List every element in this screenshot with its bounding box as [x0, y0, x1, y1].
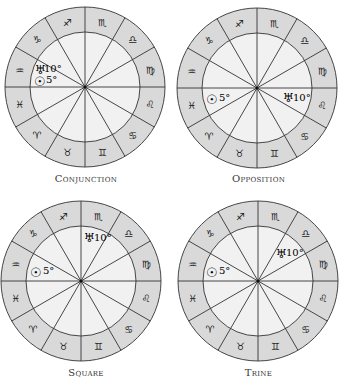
- scorpio-icon: ♏: [271, 211, 280, 222]
- leo-icon: ♌: [319, 293, 328, 304]
- leo-icon: ♌: [142, 293, 151, 304]
- taurus-icon: ♉: [236, 341, 245, 352]
- leo-icon: ♌: [146, 99, 155, 110]
- sun-degree: 5°: [43, 265, 54, 276]
- libra-icon: ♎: [128, 34, 137, 45]
- sun-icon: ☉: [30, 265, 42, 280]
- sagittarius-icon: ♐: [235, 18, 244, 29]
- center-point: [256, 87, 259, 90]
- cancer-icon: ♋: [300, 131, 309, 142]
- pisces-icon: ♓: [188, 293, 197, 304]
- gemini-icon: ♊: [271, 341, 280, 352]
- uranus-degree: 10°: [94, 232, 112, 243]
- cancer-icon: ♋: [301, 324, 310, 335]
- taurus-icon: ♉: [59, 341, 68, 352]
- caption-opposition: Opposition: [172, 173, 345, 184]
- virgo-icon: ♍: [146, 65, 155, 76]
- aries-icon: ♈: [206, 324, 215, 335]
- pisces-icon: ♓: [187, 100, 196, 111]
- capricorn-icon: ♑: [205, 35, 214, 46]
- chart-conjunction: ♒♑♐♏♎♍♌♋♊♉♈♓ Conjunction ♅ 10° ☉ 5°: [0, 0, 172, 191]
- pisces-icon: ♓: [11, 293, 20, 304]
- libra-icon: ♎: [300, 35, 309, 46]
- caption-conjunction: Conjunction: [0, 173, 172, 184]
- caption-square: Square: [0, 367, 172, 378]
- sun-icon: ☉: [206, 92, 218, 107]
- uranus-degree: 10°: [44, 63, 62, 74]
- aquarius-icon: ♒: [11, 259, 20, 270]
- sun-degree: 5°: [219, 92, 230, 103]
- libra-icon: ♎: [301, 228, 310, 239]
- caption-trine: Trine: [172, 367, 345, 378]
- zodiac-wheel: ♒♑♐♏♎♍♌♋♊♉♈♓: [0, 0, 172, 175]
- pisces-icon: ♓: [15, 99, 24, 110]
- capricorn-icon: ♑: [29, 228, 38, 239]
- taurus-icon: ♉: [63, 147, 72, 158]
- center-point: [84, 86, 87, 89]
- libra-icon: ♎: [124, 228, 133, 239]
- cancer-icon: ♋: [128, 130, 137, 141]
- gemini-icon: ♊: [98, 147, 107, 158]
- virgo-icon: ♍: [142, 259, 151, 270]
- sagittarius-icon: ♐: [59, 211, 68, 222]
- gemini-icon: ♊: [94, 341, 103, 352]
- sagittarius-icon: ♐: [63, 17, 72, 28]
- chart-trine: ♒♑♐♏♎♍♌♋♊♉♈♓ Trine ♅ 10° ☉ 5°: [172, 191, 345, 382]
- virgo-icon: ♍: [319, 259, 328, 270]
- uranus-degree: 10°: [286, 247, 304, 258]
- cancer-icon: ♋: [124, 324, 133, 335]
- scorpio-icon: ♏: [94, 211, 103, 222]
- scorpio-icon: ♏: [98, 17, 107, 28]
- scorpio-icon: ♏: [270, 18, 279, 29]
- gemini-icon: ♊: [270, 148, 279, 159]
- sun-icon: ☉: [206, 265, 218, 280]
- aries-icon: ♈: [29, 324, 38, 335]
- sun-degree: 5°: [46, 74, 57, 85]
- capricorn-icon: ♑: [206, 228, 215, 239]
- sun-icon: ☉: [34, 74, 46, 89]
- sagittarius-icon: ♐: [236, 211, 245, 222]
- chart-square: ♒♑♐♏♎♍♌♋♊♉♈♓ Square ♅ 10° ☉ 5°: [0, 191, 172, 382]
- aquarius-icon: ♒: [187, 66, 196, 77]
- virgo-icon: ♍: [318, 66, 327, 77]
- zodiac-wheel: ♒♑♐♏♎♍♌♋♊♉♈♓: [172, 0, 345, 175]
- uranus-degree: 10°: [293, 92, 311, 103]
- zodiac-wheel: ♒♑♐♏♎♍♌♋♊♉♈♓: [0, 191, 172, 366]
- leo-icon: ♌: [318, 100, 327, 111]
- taurus-icon: ♉: [235, 148, 244, 159]
- center-point: [257, 280, 260, 283]
- aries-icon: ♈: [33, 130, 42, 141]
- zodiac-wheel: ♒♑♐♏♎♍♌♋♊♉♈♓: [172, 191, 345, 366]
- center-point: [80, 280, 83, 283]
- sun-degree: 5°: [219, 265, 230, 276]
- aries-icon: ♈: [205, 131, 214, 142]
- aquarius-icon: ♒: [15, 65, 24, 76]
- aquarius-icon: ♒: [188, 259, 197, 270]
- capricorn-icon: ♑: [33, 34, 42, 45]
- chart-opposition: ♒♑♐♏♎♍♌♋♊♉♈♓ Opposition ☉ 5° ♅ 10°: [172, 0, 345, 191]
